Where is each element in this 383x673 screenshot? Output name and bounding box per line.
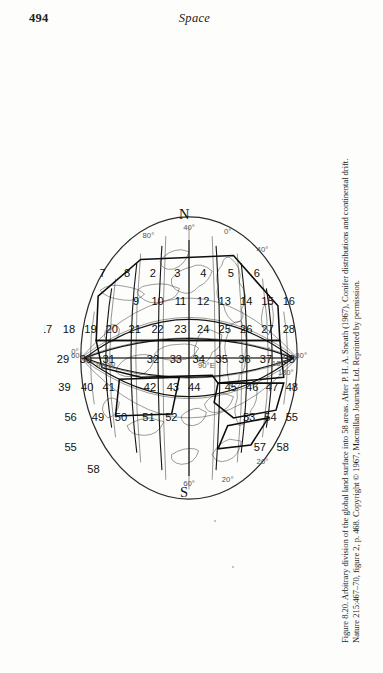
area-number: 26 [240, 323, 252, 335]
area-number: 40 [81, 381, 93, 393]
scan-speck [268, 347, 270, 349]
meridian-label: 0° [87, 353, 94, 362]
north-pole-label: N [179, 206, 190, 222]
meridian-label: 0° [71, 347, 78, 356]
area-number: 20 [106, 323, 118, 335]
area-number: 19 [84, 323, 96, 335]
area-number: 42 [144, 381, 156, 393]
area-number: 23 [174, 323, 186, 335]
area-number: 51 [142, 411, 154, 423]
area-number: 36 [238, 353, 250, 365]
meridian-label: 90°E [198, 361, 215, 370]
area-number: 5 [228, 267, 234, 279]
area-number: 6 [254, 267, 260, 279]
area-number: 48 [286, 381, 298, 393]
figure-caption: Figure 8.20. Arbitrary division of the g… [337, 52, 383, 652]
south-pole-label: S [180, 484, 188, 500]
area-number: 44 [188, 381, 200, 393]
area-number: 43 [167, 381, 179, 393]
meridian-label: 180° [278, 368, 294, 377]
caption-line-2: Nature 215:467–70, figure 2, p. 468. Cop… [352, 51, 361, 643]
parallel-label: 80° [295, 351, 307, 360]
area-number: 49 [92, 411, 104, 423]
area-number: 8 [124, 267, 130, 279]
area-number: 10 [151, 295, 163, 307]
figure-8-20: 1615614513412311210987282726252423222120… [0, 52, 383, 652]
area-number: 11 [175, 295, 187, 307]
world-map-figure: 1615614513412311210987282726252423222120… [44, 98, 334, 618]
parallel-label: 40° [183, 223, 195, 232]
area-number: 56 [64, 411, 76, 423]
parallel-label: 80° [143, 231, 155, 240]
area-number: 35 [215, 353, 227, 365]
area-number: 55 [286, 411, 298, 423]
area-number: 45 [225, 381, 237, 393]
area-number: 58 [276, 441, 288, 453]
area-number: 24 [197, 323, 209, 335]
map-rotation-container: 1615614513412311210987282726252423222120… [44, 98, 334, 618]
area-number: 2 [150, 267, 156, 279]
area-number: 22 [151, 323, 163, 335]
scan-speck [214, 520, 216, 522]
area-number-labels: 1615614513412311210987282726252423222120… [44, 267, 298, 475]
area-number: 58 [87, 463, 99, 475]
area-number: 54 [264, 411, 276, 423]
parallel-label: 20° [222, 475, 234, 484]
area-number: 52 [165, 411, 177, 423]
area-number: 7 [99, 267, 105, 279]
area-number: 12 [197, 295, 209, 307]
area-number: 17 [44, 323, 52, 335]
meridian-label: 180° [272, 359, 288, 368]
area-number: 33 [170, 353, 182, 365]
scan-speck [232, 566, 234, 568]
area-number: 32 [147, 353, 159, 365]
area-number: 39 [58, 381, 70, 393]
area-number: 37 [260, 353, 272, 365]
chapter-title: Space [0, 11, 383, 26]
area-number: 3 [174, 267, 180, 279]
area-number: 4 [200, 267, 206, 279]
area-number: 15 [261, 295, 273, 307]
area-number: 57 [254, 441, 266, 453]
area-number: 13 [218, 295, 230, 307]
caption-line-1: Figure 8.20. Arbitrary division of the g… [341, 51, 350, 643]
area-number: 47 [266, 381, 278, 393]
parallel-label: 40° [257, 245, 269, 254]
area-number: 53 [243, 411, 255, 423]
running-head: 494 Space [0, 11, 383, 29]
area-number: 29 [57, 353, 69, 365]
parallel-label: 0° [224, 227, 231, 236]
area-number: 55 [64, 441, 76, 453]
area-number: 28 [283, 323, 295, 335]
area-number: 46 [246, 381, 258, 393]
meridian-label: 90°W [96, 361, 116, 370]
area-number: 18 [63, 323, 75, 335]
area-number: 41 [102, 381, 114, 393]
area-number: 14 [240, 295, 252, 307]
area-number: 9 [133, 295, 139, 307]
area-number: 25 [218, 323, 230, 335]
area-number: 27 [261, 323, 273, 335]
area-number: 50 [115, 411, 127, 423]
world-map-svg: 1615614513412311210987282726252423222120… [44, 98, 334, 618]
area-number: 21 [128, 323, 140, 335]
area-number: 16 [283, 295, 295, 307]
parallel-label: 20° [257, 457, 269, 466]
